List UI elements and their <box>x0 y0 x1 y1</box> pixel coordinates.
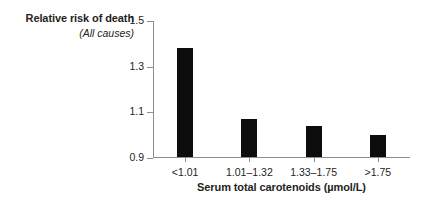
x-axis-tick-label: >1.75 <box>365 166 392 178</box>
x-axis-tick <box>314 158 315 162</box>
x-axis-tick-label: 1.01–1.32 <box>226 166 273 178</box>
bar-chart-figure: Relative risk of death (All causes) 0.91… <box>0 0 425 201</box>
x-axis-tick-label: <1.01 <box>172 166 199 178</box>
y-axis-tick-label: 0.9 <box>129 151 144 163</box>
bar <box>241 119 257 157</box>
y-axis-title-subtitle: (All causes) <box>6 27 134 40</box>
bar <box>177 48 193 157</box>
x-axis-tick <box>249 158 250 162</box>
y-axis-title-main: Relative risk of death <box>6 12 134 26</box>
x-axis-tick <box>185 158 186 162</box>
y-axis-tick: 1.5 <box>147 21 153 22</box>
y-axis-title: Relative risk of death (All causes) <box>6 12 134 40</box>
y-axis-tick: 0.9 <box>147 158 153 159</box>
bar <box>306 126 322 157</box>
y-axis-tick: 1.1 <box>147 112 153 113</box>
y-axis-tick: 1.3 <box>147 67 153 68</box>
x-axis-line <box>153 157 410 158</box>
y-axis-tick-label: 1.3 <box>129 60 144 72</box>
y-axis-tick-label: 1.5 <box>129 14 144 26</box>
y-axis-tick-label: 1.1 <box>129 105 144 117</box>
x-axis-tick <box>378 158 379 162</box>
plot-area: 0.91.11.31.5<1.011.01–1.321.33–1.75>1.75 <box>153 21 410 158</box>
bar <box>370 135 386 157</box>
x-axis-title: Serum total carotenoids (µmol/L) <box>153 181 410 193</box>
y-axis-line <box>153 21 154 158</box>
x-axis-tick-label: 1.33–1.75 <box>290 166 337 178</box>
